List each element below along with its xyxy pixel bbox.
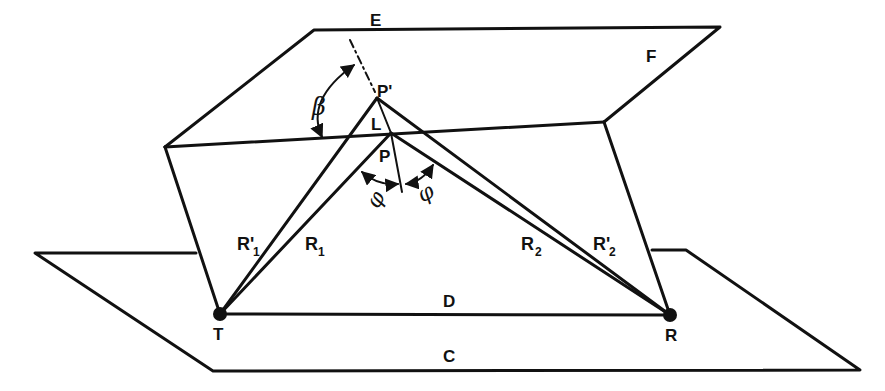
svg-text:2: 2 <box>609 245 616 259</box>
label-r: R <box>665 326 677 345</box>
label-l: L <box>371 115 381 134</box>
transmitter-point <box>213 307 227 321</box>
label-c: C <box>443 347 455 366</box>
label-f: F <box>646 47 656 66</box>
receiver-point <box>663 308 677 322</box>
label-r1: R 1 <box>305 234 325 259</box>
label-p-prime: P' <box>377 82 392 101</box>
svg-text:1: 1 <box>253 245 260 259</box>
label-r2: R 2 <box>521 234 542 259</box>
svg-text:R: R <box>305 234 318 254</box>
label-d: D <box>443 292 455 311</box>
path-r1-prime <box>220 98 377 314</box>
label-r1-prime: R' 1 <box>237 234 260 259</box>
reflected-path <box>220 133 670 315</box>
path-r2-prime <box>377 98 670 315</box>
label-phi-left: φ <box>361 186 391 212</box>
path-r2 <box>391 133 670 315</box>
label-p: P <box>379 147 390 166</box>
svg-text:R: R <box>521 234 534 254</box>
svg-text:R': R' <box>593 234 610 254</box>
label-e: E <box>370 11 381 30</box>
upper-plane-f <box>165 27 720 147</box>
svg-text:R': R' <box>237 234 254 254</box>
label-t: T <box>213 325 224 344</box>
label-phi-right: φ <box>413 178 439 208</box>
path-r1 <box>220 133 391 314</box>
reflection-diagram: E F P' L P β φ φ R' 1 R 1 R 2 R' 2 D C T… <box>0 0 885 391</box>
label-r2-prime: R' 2 <box>593 234 616 259</box>
plane-intersection-line <box>165 122 604 147</box>
label-beta: β <box>311 93 326 121</box>
svg-text:2: 2 <box>535 245 542 259</box>
svg-text:1: 1 <box>318 245 325 259</box>
direct-path-d <box>220 314 670 315</box>
angle-phi-left-arc <box>362 172 398 184</box>
